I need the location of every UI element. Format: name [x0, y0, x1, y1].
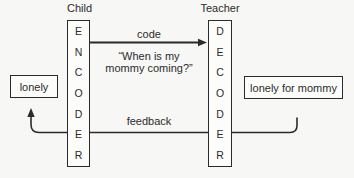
left-feedback-curve [27, 108, 67, 133]
encoder-box: E N C O D E R [67, 20, 90, 167]
encoder-letter: C [75, 67, 83, 77]
child-feeling-label: lonely [20, 81, 49, 93]
teacher-feeling-label: lonely for mommy [250, 82, 337, 94]
decoder-box: D E C O D E R [208, 20, 232, 167]
encoder-letter: E [75, 26, 82, 36]
teacher-feeling-box: lonely for mommy [244, 76, 343, 99]
child-feeling-box: lonely [10, 75, 58, 98]
encoder-letter: R [75, 150, 83, 160]
spoken-message-line1: “When is my [88, 50, 210, 62]
decoder-letter: C [216, 67, 224, 77]
teacher-role-label: Teacher [200, 2, 240, 14]
decoder-letter: E [216, 129, 223, 139]
right-feedback-curve [232, 118, 297, 133]
decoder-letter: O [216, 88, 224, 98]
decoder-letter: D [216, 109, 224, 119]
spoken-message-line2: mommy coming?” [88, 62, 210, 74]
encoder-letter: E [75, 129, 82, 139]
decoder-letter: D [216, 26, 224, 36]
encoder-letter: N [75, 47, 83, 57]
communication-model-diagram: Child Teacher E N C O D E R D E C O D E … [0, 0, 354, 178]
code-label: code [90, 28, 208, 40]
feedback-label: feedback [90, 115, 208, 127]
child-role-label: Child [67, 2, 90, 14]
decoder-letter: R [216, 150, 224, 160]
spoken-message: “When is my mommy coming?” [88, 50, 210, 74]
decoder-letter: E [216, 47, 223, 57]
encoder-letter: D [75, 109, 83, 119]
encoder-letter: O [74, 88, 82, 98]
up-arrowhead-icon [27, 108, 34, 117]
